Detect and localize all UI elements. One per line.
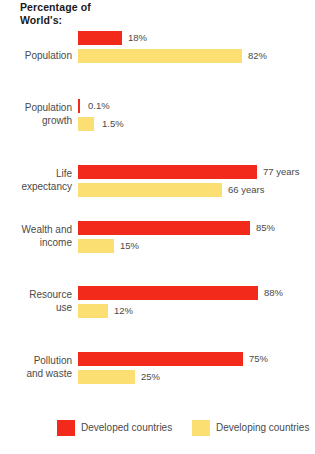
bar-developing (78, 183, 222, 197)
bar-group-population: Population 18% 82% (0, 31, 315, 67)
bar-value-developed: 0.1% (88, 99, 110, 113)
category-label-life-expectancy: Life expectancy (0, 168, 72, 193)
legend-swatch-developed-icon (57, 420, 75, 436)
bar-developing (78, 49, 242, 63)
bar-developing (78, 304, 108, 318)
bar-value-developed: 18% (128, 31, 147, 45)
legend-label-developed: Developed countries (81, 420, 172, 436)
bar-developed (78, 31, 122, 45)
bar-developed (78, 352, 243, 366)
bar-developed (78, 286, 258, 300)
category-label-pollution-and-waste: Pollution and waste (0, 355, 72, 380)
bar-group-resource-use: Resource use 88% 12% (0, 286, 315, 322)
bar-value-developing: 25% (141, 370, 160, 384)
bar-developing (78, 370, 135, 384)
category-label-resource-use: Resource use (0, 289, 72, 314)
bar-value-developing: 82% (248, 49, 267, 63)
legend-swatch-developing-icon (192, 420, 210, 436)
bar-group-wealth-and-income: Wealth and income 85% 15% (0, 221, 315, 257)
chart-title: Percentage of World's: (20, 1, 150, 26)
bar-group-population-growth: Population growth 0.1% 1.5% (0, 99, 315, 135)
category-label-wealth-and-income: Wealth and income (0, 224, 72, 249)
legend-label-developing: Developing countries (216, 420, 309, 436)
bar-group-life-expectancy: Life expectancy 77 years 66 years (0, 165, 315, 201)
bar-value-developing: 66 years (228, 183, 264, 197)
chart-legend: Developed countries Developing countries (0, 420, 315, 440)
category-label-population: Population (0, 50, 72, 63)
bar-value-developing: 12% (114, 304, 133, 318)
category-label-population-growth: Population growth (0, 102, 72, 127)
bar-value-developed: 75% (249, 352, 268, 366)
percentage-of-worlds-bar-chart: Percentage of World's: Population 18% 82… (0, 0, 315, 454)
bar-developing (78, 117, 94, 131)
bar-value-developed: 77 years (263, 165, 299, 179)
bar-developed (78, 165, 257, 179)
bar-developed (78, 99, 80, 113)
bar-developing (78, 239, 114, 253)
bar-group-pollution-and-waste: Pollution and waste 75% 25% (0, 352, 315, 388)
bar-value-developing: 1.5% (102, 117, 124, 131)
bar-value-developed: 88% (264, 286, 283, 300)
bar-value-developed: 85% (256, 221, 275, 235)
bar-developed (78, 221, 250, 235)
bar-value-developing: 15% (120, 239, 139, 253)
